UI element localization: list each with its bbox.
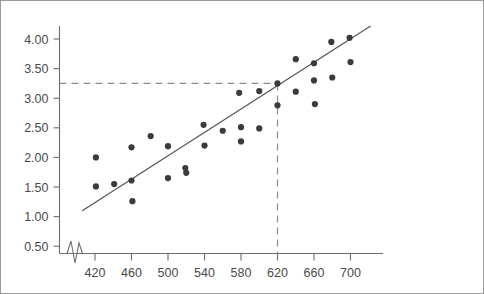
data-point xyxy=(148,133,154,139)
data-point xyxy=(238,138,244,144)
y-tick-label: 0.50 xyxy=(24,240,48,254)
y-tick-label: 2.50 xyxy=(24,121,48,135)
x-tick-label: 580 xyxy=(231,266,252,280)
data-point xyxy=(328,39,334,45)
data-point xyxy=(200,122,206,128)
data-point xyxy=(165,143,171,149)
data-point xyxy=(183,170,189,176)
data-point xyxy=(238,124,244,130)
x-tick-label: 460 xyxy=(121,266,142,280)
data-point xyxy=(111,181,117,187)
data-point xyxy=(201,142,207,148)
data-point xyxy=(256,88,262,94)
x-tick-label: 660 xyxy=(304,266,325,280)
data-point xyxy=(293,89,299,95)
data-point xyxy=(236,90,242,96)
regression-line xyxy=(82,26,370,211)
x-tick-label: 620 xyxy=(267,266,288,280)
data-point xyxy=(347,59,353,65)
data-point xyxy=(293,56,299,62)
data-point xyxy=(93,154,99,160)
data-point xyxy=(93,183,99,189)
x-axis-break-icon xyxy=(67,241,83,263)
data-point xyxy=(311,60,317,66)
data-point xyxy=(129,198,135,204)
data-point xyxy=(311,77,317,83)
y-tick-label: 3.50 xyxy=(24,62,48,76)
data-point xyxy=(274,80,280,86)
data-point xyxy=(220,128,226,134)
data-point xyxy=(346,35,352,41)
data-point xyxy=(128,177,134,183)
y-tick-label: 3.00 xyxy=(24,92,48,106)
y-tick-label: 2.00 xyxy=(24,151,48,165)
data-point xyxy=(256,125,262,131)
y-tick-label: 4.00 xyxy=(24,33,48,47)
x-tick-label: 500 xyxy=(158,266,179,280)
x-tick-label: 420 xyxy=(85,266,106,280)
data-point xyxy=(312,101,318,107)
x-tick-label: 700 xyxy=(340,266,361,280)
data-point xyxy=(165,175,171,181)
y-tick-label: 1.00 xyxy=(24,210,48,224)
scatter-plot-figure: 0.501.001.502.002.503.003.504.0042046050… xyxy=(0,0,484,294)
data-point xyxy=(329,74,335,80)
plot-area: 0.501.001.502.002.503.003.504.0042046050… xyxy=(1,1,484,294)
x-tick-label: 540 xyxy=(194,266,215,280)
data-point xyxy=(128,144,134,150)
y-tick-label: 1.50 xyxy=(24,181,48,195)
data-point xyxy=(274,102,280,108)
